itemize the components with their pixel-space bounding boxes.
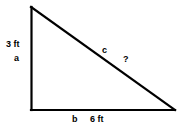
right-triangle-figure: 3 ft a b 6 ft c ? <box>0 0 187 130</box>
hypotenuse-unknown-label: ? <box>123 54 129 64</box>
triangle-shape <box>0 0 187 130</box>
leg-a-length-label: 3 ft <box>6 39 20 49</box>
hypotenuse-name-label: c <box>102 45 107 55</box>
hypotenuse-c-line <box>31 7 175 110</box>
leg-b-name-label: b <box>72 114 78 124</box>
leg-b-length-label: 6 ft <box>90 114 104 124</box>
leg-a-name-label: a <box>14 53 19 63</box>
